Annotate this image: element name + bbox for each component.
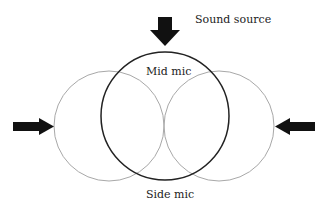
side-mic-left-lobe [54, 71, 164, 181]
mid-mic-label: Mid mic [146, 65, 191, 78]
mid-side-microphone-diagram: Sound source Mid mic Side mic [0, 0, 322, 210]
side-mic-right-lobe [164, 71, 274, 181]
sound-source-label: Sound source [195, 13, 271, 26]
left-arrow-icon [13, 118, 54, 135]
right-arrow-icon [275, 118, 315, 135]
top-arrow-icon [150, 17, 180, 46]
side-mic-label: Side mic [146, 188, 194, 201]
